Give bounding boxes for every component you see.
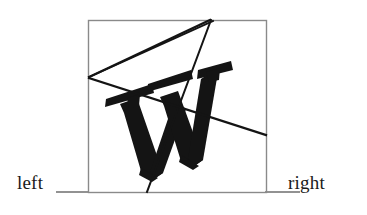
figure-container: left right (0, 0, 367, 215)
label-left: left (17, 173, 43, 192)
label-right: right (288, 173, 325, 192)
